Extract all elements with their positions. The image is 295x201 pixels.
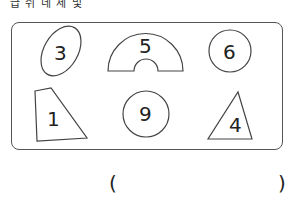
- shape-label: 3: [54, 41, 67, 65]
- shape-label: 6: [223, 40, 236, 64]
- shape-label: 9: [139, 102, 152, 126]
- answer-blank[interactable]: [125, 173, 270, 195]
- answer-open-paren: (: [109, 171, 117, 195]
- answer-close-paren: ): [278, 171, 286, 195]
- shapes-canvas: 3 5 6 1 9 4: [0, 0, 295, 201]
- shape-label: 1: [47, 107, 60, 131]
- shape-label: 5: [139, 34, 152, 58]
- shape-label: 4: [229, 113, 242, 137]
- quadrilateral-shape: [35, 88, 87, 141]
